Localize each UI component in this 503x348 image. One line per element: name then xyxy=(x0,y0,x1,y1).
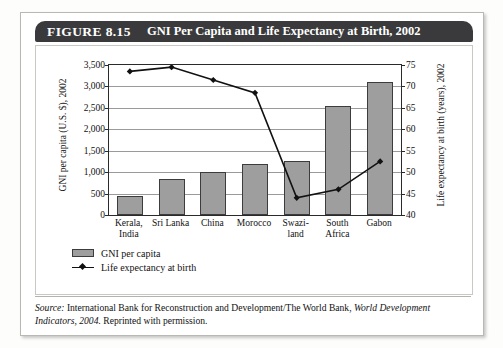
y-axis-label-right: Life expectancy at birth (years), 2002 xyxy=(436,60,446,210)
y-tick-label-left: 3,500 xyxy=(84,60,105,70)
figure-title: GNI Per Capita and Life Expectancy at Bi… xyxy=(131,24,421,39)
y-tick-label-right: 75 xyxy=(406,60,416,70)
y-tick-label-left: 1,500 xyxy=(84,146,105,156)
x-axis-label: Sri Lanka xyxy=(150,218,192,229)
x-axis-labels: Kerala,IndiaSri LankaChinaMoroccoSwazi-l… xyxy=(108,216,400,246)
y-tick-label-left: 3,000 xyxy=(84,81,105,91)
y-tick-label-left: 2,500 xyxy=(84,103,105,113)
y-tick-label-left: 500 xyxy=(91,189,105,199)
legend-item-life-expectancy: Life expectancy at birth xyxy=(72,260,196,274)
source-text-2: Reprinted with permission. xyxy=(101,315,208,326)
life-expectancy-line xyxy=(130,67,380,198)
y-tick-mark-right xyxy=(401,108,405,109)
y-tick-mark-right xyxy=(401,129,405,130)
y-tick-mark-right xyxy=(401,65,405,66)
y-tick-label-right: 45 xyxy=(406,189,416,199)
x-axis-label: Gabon xyxy=(358,218,400,229)
x-axis-label: Kerala,India xyxy=(108,218,150,240)
y-tick-label-right: 65 xyxy=(406,103,416,113)
bar-swatch-icon xyxy=(72,249,94,257)
chart: GNI per capita (U.S. $), 2002 Life expec… xyxy=(36,46,472,256)
y-tick-mark-right xyxy=(401,86,405,87)
y-tick-label-right: 60 xyxy=(406,124,416,134)
figure-number: FIGURE 8.15 xyxy=(35,24,131,40)
x-axis-label: SouthAfrica xyxy=(317,218,359,240)
legend-label-life-expectancy: Life expectancy at birth xyxy=(101,262,196,273)
figure-box: FIGURE 8.15 GNI Per Capita and Life Expe… xyxy=(20,12,484,336)
line-series xyxy=(109,65,401,215)
plot-area: 05001,0001,5002,0002,5003,0003,500 40455… xyxy=(108,64,402,216)
y-axis-label-left: GNI per capita (U.S. $), 2002 xyxy=(58,60,68,210)
source-text-1: International Bank for Reconstruction an… xyxy=(64,302,353,313)
y-tick-mark-right xyxy=(401,151,405,152)
figure-page: FIGURE 8.15 GNI Per Capita and Life Expe… xyxy=(0,0,503,348)
data-point-marker xyxy=(127,68,133,74)
figure-title-band: FIGURE 8.15 GNI Per Capita and Life Expe… xyxy=(35,21,473,42)
y-tick-label-right: 50 xyxy=(406,167,416,177)
y-tick-label-right: 70 xyxy=(406,81,416,91)
y-tick-label-left: 2,000 xyxy=(84,124,105,134)
y-tick-label-left: 1,000 xyxy=(84,167,105,177)
x-axis-label: Morocco xyxy=(233,218,275,229)
x-axis-label: China xyxy=(191,218,233,229)
legend: GNI per capita Life expectancy at birth xyxy=(72,246,196,274)
y-tick-mark-right xyxy=(401,215,405,216)
legend-label-gni: GNI per capita xyxy=(101,248,160,259)
data-point-marker xyxy=(168,65,174,70)
source-divider xyxy=(35,296,471,297)
figure-content-frame: GNI per capita (U.S. $), 2002 Life expec… xyxy=(35,45,473,295)
y-tick-label-right: 40 xyxy=(406,210,416,220)
y-tick-mark-right xyxy=(401,172,405,173)
legend-item-gni: GNI per capita xyxy=(72,246,196,260)
y-tick-mark-right xyxy=(401,194,405,195)
data-point-marker xyxy=(210,77,216,83)
data-point-marker xyxy=(252,90,258,96)
y-tick-label-right: 55 xyxy=(406,146,416,156)
source-prefix: Source: xyxy=(35,302,64,313)
x-axis-label: Swazi-land xyxy=(275,218,317,240)
source-note: Source: International Bank for Reconstru… xyxy=(35,301,467,327)
line-marker-swatch-icon xyxy=(72,263,94,271)
data-point-marker xyxy=(294,195,300,201)
